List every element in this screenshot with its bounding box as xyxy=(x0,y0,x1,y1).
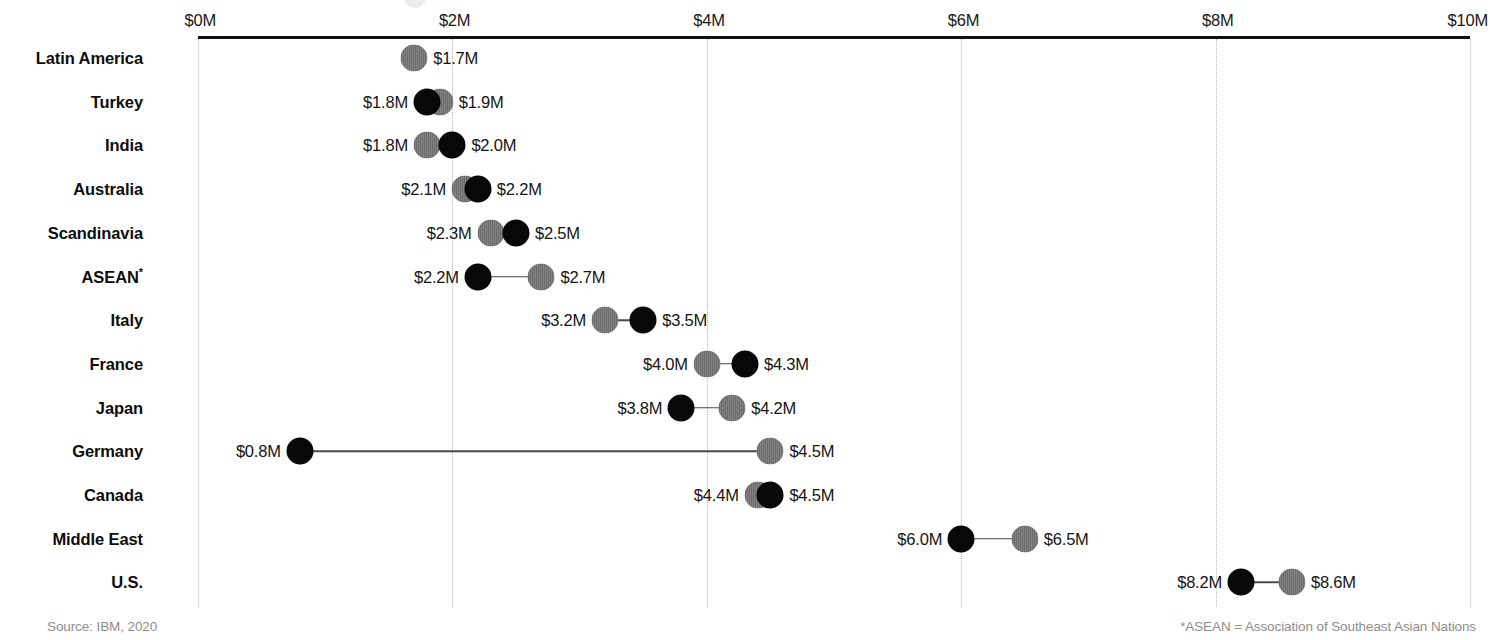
data-point-black[interactable] xyxy=(731,350,758,377)
data-point-black[interactable] xyxy=(464,176,491,203)
data-point-gray[interactable] xyxy=(401,45,428,72)
value-label: $4.2M xyxy=(751,398,796,417)
data-point-black[interactable] xyxy=(630,307,657,334)
data-point-black[interactable] xyxy=(503,219,530,246)
chart-row: Germany$0.8M$4.5M xyxy=(0,429,1490,473)
value-label: $2.7M xyxy=(560,267,605,286)
data-point-black[interactable] xyxy=(286,438,313,465)
value-label: $3.8M xyxy=(618,398,663,417)
data-point-gray[interactable] xyxy=(477,219,504,246)
chart-row: Canada$4.4M$4.5M xyxy=(0,473,1490,517)
chart-row: India$1.8M$2.0M xyxy=(0,123,1490,167)
value-label: $6.0M xyxy=(897,529,942,548)
value-label: $2.5M xyxy=(535,223,580,242)
chart-row: Latin America$1.7M xyxy=(0,36,1490,80)
row-label-canada: Canada xyxy=(0,486,143,505)
data-point-black[interactable] xyxy=(1228,569,1255,596)
row-label-turkey: Turkey xyxy=(0,92,143,111)
chart-row: U.S.$8.2M$8.6M xyxy=(0,560,1490,604)
row-label-asean: ASEAN* xyxy=(0,267,143,286)
value-label: $2.0M xyxy=(471,136,516,155)
data-point-gray[interactable] xyxy=(528,263,555,290)
chart-row: France$4.0M$4.3M xyxy=(0,342,1490,386)
data-point-gray[interactable] xyxy=(719,394,746,421)
value-label: $2.2M xyxy=(497,180,542,199)
chart-row: Italy$3.2M$3.5M xyxy=(0,298,1490,342)
row-label-u-s: U.S. xyxy=(0,573,143,592)
value-label: $3.5M xyxy=(662,311,707,330)
data-point-black[interactable] xyxy=(413,88,440,115)
source-caption: Source: IBM, 2020 xyxy=(47,619,157,634)
data-point-gray[interactable] xyxy=(693,350,720,377)
value-label: $4.5M xyxy=(789,442,834,461)
value-label: $0.8M xyxy=(236,442,281,461)
data-point-black[interactable] xyxy=(757,482,784,509)
data-point-black[interactable] xyxy=(948,525,975,552)
value-label: $2.3M xyxy=(427,223,472,242)
asean-footnote: *ASEAN = Association of Southeast Asian … xyxy=(1180,619,1476,634)
row-label-germany: Germany xyxy=(0,442,143,461)
value-label: $4.5M xyxy=(789,486,834,505)
chart-row: Japan$3.8M$4.2M xyxy=(0,386,1490,430)
row-label-italy: Italy xyxy=(0,311,143,330)
chart-row: ASEAN*$2.2M$2.7M xyxy=(0,255,1490,299)
chart-row: Australia$2.1M$2.2M xyxy=(0,167,1490,211)
footnote-marker: * xyxy=(139,266,143,278)
value-label: $1.9M xyxy=(459,92,504,111)
row-label-france: France xyxy=(0,354,143,373)
x-tick-label: $4M xyxy=(693,11,725,30)
row-label-australia: Australia xyxy=(0,180,143,199)
x-tick-label: $10M xyxy=(1448,11,1488,30)
row-label-india: India xyxy=(0,136,143,155)
value-label: $1.7M xyxy=(433,49,478,68)
x-tick-label: $0M xyxy=(185,11,217,30)
chart-row: Turkey$1.8M$1.9M xyxy=(0,80,1490,124)
data-point-gray[interactable] xyxy=(592,307,619,334)
connector-line xyxy=(300,451,771,453)
data-point-gray[interactable] xyxy=(1011,525,1038,552)
chart-row: Scandinavia$2.3M$2.5M xyxy=(0,211,1490,255)
x-tick-label: $2M xyxy=(439,11,471,30)
value-label: $4.3M xyxy=(764,354,809,373)
value-label: $8.6M xyxy=(1311,573,1356,592)
chart-row: Middle East$6.0M$6.5M xyxy=(0,517,1490,561)
dumbbell-chart: $0M$2M$4M$6M$8M$10M Latin America$1.7MTu… xyxy=(0,0,1490,640)
value-label: $4.4M xyxy=(694,486,739,505)
data-point-black[interactable] xyxy=(464,263,491,290)
x-tick-label: $8M xyxy=(1202,11,1234,30)
cropped-legend-artifact xyxy=(404,0,426,8)
value-label: $8.2M xyxy=(1177,573,1222,592)
value-label: $4.0M xyxy=(643,354,688,373)
data-point-black[interactable] xyxy=(439,132,466,159)
data-point-black[interactable] xyxy=(668,394,695,421)
x-tick-label: $6M xyxy=(948,11,980,30)
data-point-gray[interactable] xyxy=(413,132,440,159)
data-point-gray[interactable] xyxy=(757,438,784,465)
row-label-japan: Japan xyxy=(0,398,143,417)
row-label-latin-america: Latin America xyxy=(0,49,143,68)
data-point-gray[interactable] xyxy=(1278,569,1305,596)
value-label: $2.2M xyxy=(414,267,459,286)
value-label: $1.8M xyxy=(363,136,408,155)
row-label-middle-east: Middle East xyxy=(0,529,143,548)
value-label: $1.8M xyxy=(363,92,408,111)
value-label: $6.5M xyxy=(1044,529,1089,548)
row-label-scandinavia: Scandinavia xyxy=(0,223,143,242)
value-label: $3.2M xyxy=(541,311,586,330)
value-label: $2.1M xyxy=(401,180,446,199)
